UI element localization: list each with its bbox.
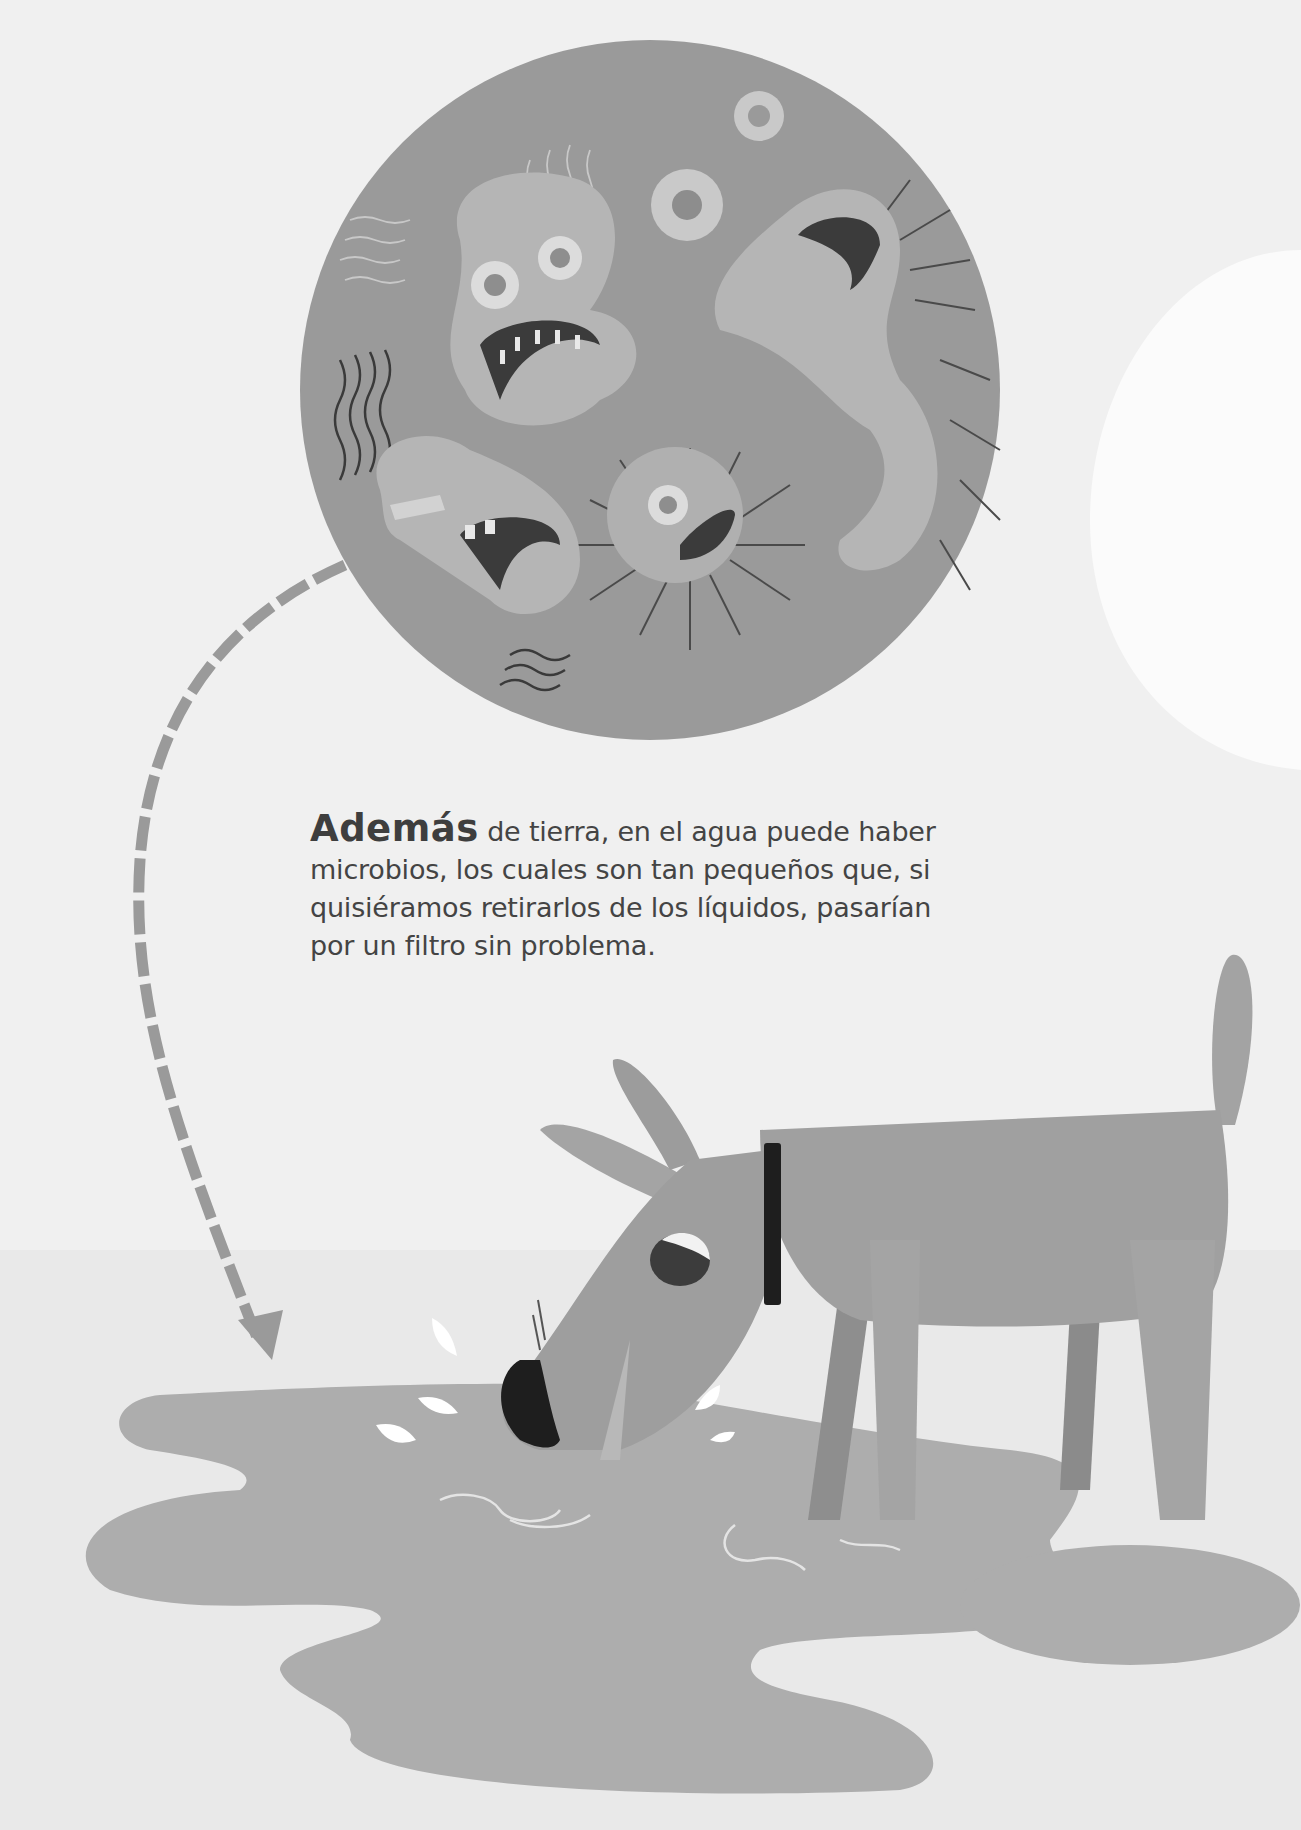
background-light-shape <box>1090 250 1301 770</box>
microbe-circle <box>300 40 1000 740</box>
body-text: Además de tierra, en el agua puede haber… <box>310 810 1070 965</box>
text-line-2: microbios, los cuales son tan pequeños q… <box>310 851 1070 889</box>
microbe-one-eye <box>607 447 743 583</box>
dog-collar <box>764 1143 781 1305</box>
dog-tail <box>1212 955 1252 1125</box>
book-page: Además de tierra, en el agua puede haber… <box>0 0 1301 1830</box>
text-line-1: Además de tierra, en el agua puede haber <box>310 810 1070 851</box>
text-line-4: por un filtro sin problema. <box>310 927 1070 965</box>
text-line-3: quisiéramos retirarlos de los líquidos, … <box>310 889 1070 927</box>
text-line-1-rest: de tierra, en el agua puede haber <box>479 816 936 847</box>
lead-word: Además <box>310 807 479 850</box>
